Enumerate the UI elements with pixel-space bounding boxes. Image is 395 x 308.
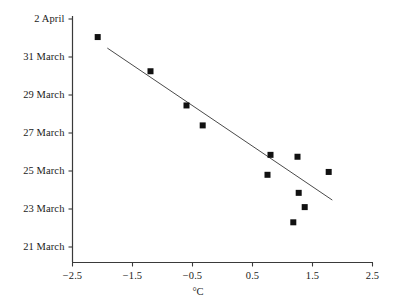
trend-line xyxy=(107,48,332,200)
data-point-marker xyxy=(200,122,206,128)
axis-lines xyxy=(72,16,373,263)
data-points xyxy=(95,34,332,225)
x-tick-label: −1.5 xyxy=(108,271,158,282)
regression-line xyxy=(107,48,332,200)
y-tick-label: 29 March xyxy=(0,90,65,101)
data-point-marker xyxy=(148,68,154,74)
x-tick-label: −2.5 xyxy=(48,271,98,282)
data-point-marker xyxy=(95,34,101,40)
data-point-marker xyxy=(184,102,190,108)
data-point-marker xyxy=(326,169,332,175)
data-point-marker xyxy=(302,204,308,210)
y-tick-label: 31 March xyxy=(0,52,65,63)
data-point-marker xyxy=(268,152,274,158)
data-point-marker xyxy=(295,154,301,160)
x-tick-label: −0.5 xyxy=(168,271,218,282)
x-axis-title: °C xyxy=(168,287,228,298)
scatter-chart: 2 April31 March29 March27 March25 March2… xyxy=(0,0,395,308)
data-point-marker xyxy=(290,219,296,225)
y-tick-label: 25 March xyxy=(0,166,65,177)
plot-area xyxy=(0,0,395,308)
y-tick-label: 23 March xyxy=(0,204,65,215)
y-tick-label: 27 March xyxy=(0,128,65,139)
x-tick-label: 1.5 xyxy=(288,271,338,282)
x-tick-label: 2.5 xyxy=(348,271,395,282)
data-point-marker xyxy=(296,190,302,196)
y-tick-label: 2 April xyxy=(0,14,65,25)
x-tick-label: 0.5 xyxy=(228,271,278,282)
y-tick-label: 21 March xyxy=(0,242,65,253)
data-point-marker xyxy=(265,172,271,178)
